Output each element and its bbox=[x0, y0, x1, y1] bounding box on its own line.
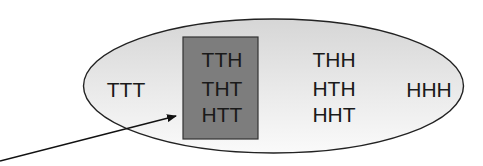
pointer-arrow bbox=[0, 116, 176, 161]
event-outcome-1: TTH bbox=[202, 48, 243, 71]
middle-outcome-3: HHT bbox=[312, 103, 355, 126]
event-outcome-3: HTT bbox=[202, 103, 243, 126]
diagram-canvas: TTT TTH THT HTT THH HTH HHT HHH bbox=[0, 0, 483, 166]
event-outcome-2: THT bbox=[202, 77, 243, 100]
outcome-left: TTT bbox=[107, 78, 146, 101]
middle-outcome-2: HTH bbox=[312, 77, 355, 100]
middle-outcome-1: THH bbox=[312, 48, 355, 71]
outcome-right: HHH bbox=[406, 78, 452, 101]
